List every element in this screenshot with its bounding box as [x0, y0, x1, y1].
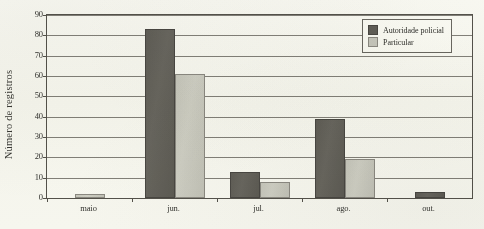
- bar-jun-series-0: [145, 29, 175, 198]
- y-axis-tick-label: 90: [17, 9, 43, 19]
- x-axis-tick-label: jul.: [216, 203, 301, 213]
- y-axis-tick-label: 60: [17, 70, 43, 80]
- bar-chart-figure: Número de registros 0102030405060708090 …: [0, 0, 484, 229]
- legend-item: Particular: [368, 36, 444, 48]
- bar-maio-series-1: [75, 194, 105, 198]
- bar-jun-series-1: [175, 74, 205, 198]
- x-axis-tick-label: maio: [46, 203, 131, 213]
- legend-label: Autoridade policial: [383, 26, 444, 35]
- y-axis-tick-label: 20: [17, 151, 43, 161]
- y-axis-tick-label: 80: [17, 29, 43, 39]
- y-axis-tick-label: 10: [17, 172, 43, 182]
- bar-jul-series-1: [260, 182, 290, 198]
- y-axis-tick-label: 0: [17, 192, 43, 202]
- legend-color-swatch: [368, 37, 378, 47]
- x-axis-tick-mark: [387, 198, 388, 202]
- x-axis-tick-mark: [47, 198, 48, 202]
- x-axis-tick-label: jun.: [131, 203, 216, 213]
- bar-group: [132, 15, 217, 198]
- bar-ago-series-1: [345, 159, 375, 198]
- bar-jul-series-0: [230, 172, 260, 198]
- y-axis-tick-label: 30: [17, 131, 43, 141]
- y-axis-tick-label: 70: [17, 50, 43, 60]
- x-axis-tick-label: ago.: [301, 203, 386, 213]
- y-axis-title: Número de registros: [0, 0, 16, 229]
- y-axis-tick-label: 50: [17, 90, 43, 100]
- x-axis-tick-mark: [132, 198, 133, 202]
- x-axis-tick-mark: [217, 198, 218, 202]
- bar-ago-series-0: [315, 119, 345, 198]
- bar-out-series-0: [415, 192, 445, 198]
- bar-group: [47, 15, 132, 198]
- legend-item: Autoridade policial: [368, 24, 444, 36]
- x-axis-tick-label: out.: [386, 203, 471, 213]
- chart-legend: Autoridade policialParticular: [362, 19, 452, 53]
- bar-group: [217, 15, 302, 198]
- y-axis-tick-label: 40: [17, 111, 43, 121]
- legend-color-swatch: [368, 25, 378, 35]
- x-axis-tick-mark: [302, 198, 303, 202]
- legend-label: Particular: [383, 38, 414, 47]
